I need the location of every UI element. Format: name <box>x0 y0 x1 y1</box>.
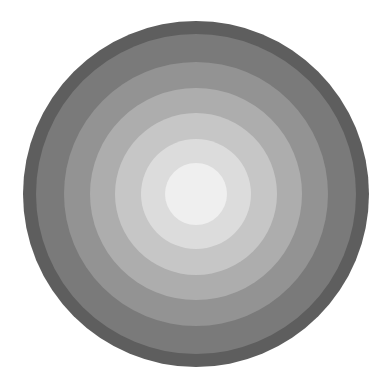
rings-group <box>23 21 369 367</box>
ring-6 <box>165 163 227 225</box>
concentric-circles-figure <box>0 0 378 369</box>
